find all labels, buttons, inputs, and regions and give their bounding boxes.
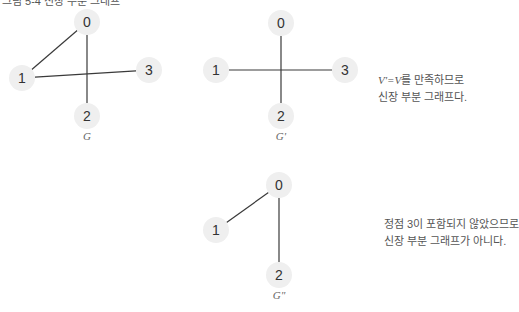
svg-text:2: 2 bbox=[83, 108, 91, 124]
svg-text:1: 1 bbox=[212, 222, 220, 238]
node-0: 0 bbox=[268, 10, 294, 36]
svg-text:0: 0 bbox=[275, 177, 283, 193]
svg-text:1: 1 bbox=[18, 70, 26, 86]
edge-1-3 bbox=[35, 71, 136, 77]
note-g-prime-line1: 를 만족하므로 bbox=[401, 74, 464, 86]
graph-label: G bbox=[83, 130, 91, 142]
note-g-prime: V'=V를 만족하므로 신장 부분 그래프다. bbox=[378, 72, 467, 106]
edge-0-1 bbox=[227, 193, 269, 223]
graph-label: G" bbox=[273, 289, 286, 301]
node-3: 3 bbox=[136, 57, 162, 83]
note-g-double-prime-line1: 정점 3이 포함되지 않았으므로 bbox=[384, 216, 519, 233]
node-1: 1 bbox=[203, 57, 229, 83]
node-2: 2 bbox=[74, 103, 100, 129]
graph-0: 0123G bbox=[9, 9, 162, 142]
svg-text:1: 1 bbox=[212, 62, 220, 78]
node-2: 2 bbox=[266, 262, 292, 288]
node-2: 2 bbox=[268, 103, 294, 129]
svg-text:3: 3 bbox=[145, 62, 153, 78]
svg-text:0: 0 bbox=[277, 15, 285, 31]
note-g-prime-line2: 신장 부분 그래프다. bbox=[378, 89, 467, 106]
graph-1: 0123G' bbox=[203, 10, 358, 142]
node-0: 0 bbox=[74, 9, 100, 35]
formula-v-prime-equals-v: V'=V bbox=[378, 74, 401, 86]
node-1: 1 bbox=[203, 217, 229, 243]
graph-2: 012G" bbox=[203, 172, 292, 301]
node-1: 1 bbox=[9, 65, 35, 91]
node-3: 3 bbox=[332, 57, 358, 83]
svg-text:2: 2 bbox=[277, 108, 285, 124]
note-g-double-prime-line2: 신장 부분 그래프가 아니다. bbox=[384, 233, 519, 250]
graph-label: G' bbox=[276, 130, 287, 142]
node-0: 0 bbox=[266, 172, 292, 198]
svg-text:2: 2 bbox=[275, 267, 283, 283]
svg-text:0: 0 bbox=[83, 14, 91, 30]
edge-0-1 bbox=[32, 30, 77, 69]
svg-text:3: 3 bbox=[341, 62, 349, 78]
note-g-double-prime: 정점 3이 포함되지 않았으므로 신장 부분 그래프가 아니다. bbox=[384, 216, 519, 250]
